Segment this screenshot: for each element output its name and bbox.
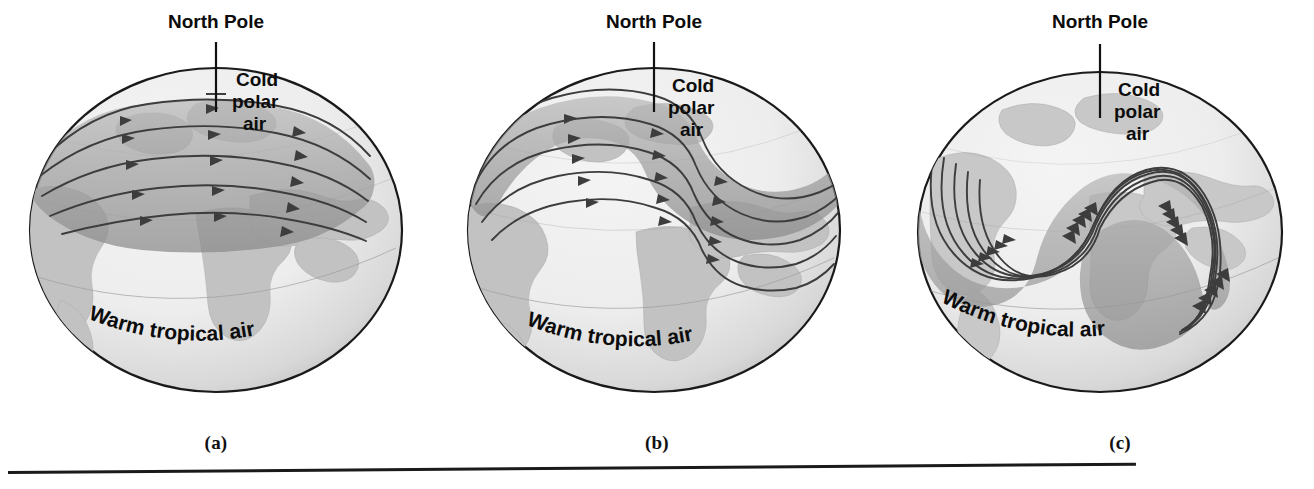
panel-c: North Pole Cold polar air Warm tropical … (876, 0, 1314, 489)
panel-c-illustration: North Pole Cold polar air Warm tropical … (876, 0, 1314, 470)
cold-polar-air-label-line1: Cold (1118, 79, 1160, 100)
cold-polar-air-label-line2: polar (232, 91, 279, 112)
cold-polar-air-label-line3: air (243, 113, 267, 134)
panel-a-letter: (a) (0, 432, 438, 454)
panel-b-illustration: North Pole Cold polar air Warm tropical … (438, 0, 876, 470)
cold-polar-air-label-line2: polar (668, 97, 715, 118)
cold-polar-air-label-line3: air (680, 119, 704, 140)
panel-c-letter: (c) (876, 432, 1314, 454)
cold-polar-air-label-line2: polar (1114, 101, 1161, 122)
panel-b: North Pole Cold polar air Warm tropical … (438, 0, 876, 489)
north-pole-label: North Pole (606, 11, 702, 32)
north-pole-label: North Pole (1052, 11, 1148, 32)
panel-a-illustration: North Pole Cold polar air Warm tropical … (0, 0, 438, 470)
panel-b-letter: (b) (438, 432, 876, 454)
north-pole-label: North Pole (168, 11, 264, 32)
panel-a: North Pole Cold polar air Warm tropical … (0, 0, 438, 489)
cold-polar-air-label-line1: Cold (236, 69, 278, 90)
cold-polar-air-label-line3: air (1126, 123, 1150, 144)
jet-stream-figure: North Pole Cold polar air Warm tropical … (0, 0, 1314, 489)
cold-polar-air-label-line1: Cold (672, 75, 714, 96)
